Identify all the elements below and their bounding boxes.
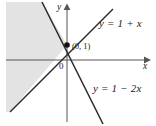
math-figure: y = 1 + x y = 1 − 2x y x (0, 1) 0 (0, 0, 156, 126)
y-axis-label: y (57, 2, 61, 12)
y-axis-arrow-icon (64, 4, 71, 11)
shaded-region (6, 2, 67, 112)
intersection-point-marker (64, 42, 70, 48)
line-label-lower: y = 1 − 2x (93, 82, 142, 94)
x-axis-label: x (143, 61, 147, 71)
line-label-upper: y = 1 + x (99, 17, 142, 29)
intersection-point-label: (0, 1) (72, 41, 90, 51)
origin-label: 0 (59, 61, 64, 71)
